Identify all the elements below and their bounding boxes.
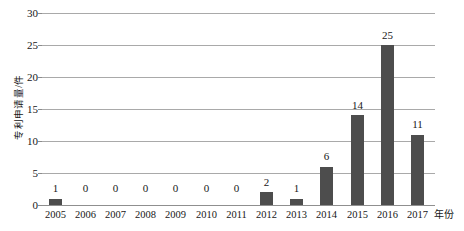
bar-2017 [411, 135, 424, 205]
bar-2016 [381, 45, 394, 205]
gridline-25 [42, 45, 435, 46]
bar-chart: 专利申请量/件 30 25 20 15 10 5 0 1 0 0 0 0 0 0… [0, 0, 464, 231]
bar-value-2005: 1 [41, 183, 71, 194]
bar-value-2007: 0 [101, 183, 131, 194]
gridline-10 [42, 141, 435, 142]
bar-2015 [351, 115, 364, 205]
gridline-5 [42, 173, 435, 174]
y-tick-label-25: 25 [12, 40, 38, 51]
bar-value-2014: 6 [312, 151, 342, 162]
y-tick-label-15: 15 [12, 104, 38, 115]
bar-value-2009: 0 [161, 183, 191, 194]
bar-2014 [320, 167, 333, 205]
bar-2013 [290, 199, 303, 205]
gridline-20 [42, 77, 435, 78]
bar-value-2011: 0 [222, 183, 252, 194]
x-tick-label-2017: 2017 [400, 209, 436, 221]
gridline-15 [42, 109, 435, 110]
y-tick-label-30: 30 [12, 8, 38, 19]
gridline-30 [42, 13, 435, 14]
bar-value-2017: 11 [403, 119, 433, 130]
bar-value-2016: 25 [373, 30, 403, 41]
bar-value-2010: 0 [192, 183, 222, 194]
bar-value-2006: 0 [71, 183, 101, 194]
x-axis-title: 年份 [434, 209, 464, 221]
bar-value-2013: 1 [282, 183, 312, 194]
y-tick-label-0: 0 [12, 200, 38, 211]
y-tick-label-10: 10 [12, 136, 38, 147]
y-tick-label-5: 5 [12, 168, 38, 179]
y-tick-label-20: 20 [12, 72, 38, 83]
bar-2005 [49, 199, 62, 205]
bar-value-2015: 14 [343, 100, 373, 111]
x-axis-baseline [42, 205, 435, 206]
bar-2012 [260, 192, 273, 205]
bar-value-2012: 2 [252, 177, 282, 188]
bar-value-2008: 0 [131, 183, 161, 194]
